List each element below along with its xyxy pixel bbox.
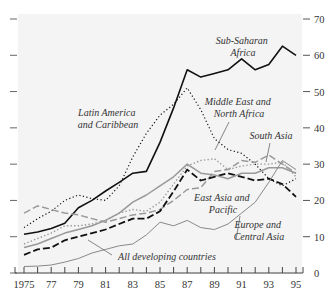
x-tick-label: 1975	[14, 279, 35, 290]
annotation-all-developing: All developing countries	[117, 251, 216, 262]
y-tick-label: 60	[314, 50, 325, 61]
x-tick-label: 85	[155, 279, 166, 290]
line-chart: 010203040506070 197577798183858789919395…	[0, 0, 333, 303]
x-tick-label: 91	[236, 279, 247, 290]
x-tick-label: 95	[291, 279, 302, 290]
y-tick-label: 40	[314, 123, 325, 134]
x-tick-label: 79	[73, 279, 84, 290]
annotation-middle-east: Middle East and North Africa	[204, 96, 274, 119]
y-axis: 010203040506070	[303, 14, 325, 279]
y-tick-label: 30	[314, 159, 325, 170]
x-tick-label: 77	[46, 279, 57, 290]
y-tick-label: 20	[314, 195, 325, 206]
y-tick-label: 10	[314, 232, 325, 243]
y-tick-label: 0	[314, 268, 319, 279]
x-tick-label: 83	[128, 279, 139, 290]
left-tick-marks	[10, 19, 17, 273]
x-tick-label: 93	[264, 279, 275, 290]
y-tick-label: 70	[314, 14, 325, 25]
x-tick-label: 87	[182, 279, 193, 290]
annotation-europe: Europe and Central Asia	[233, 219, 284, 242]
y-tick-label: 50	[314, 87, 325, 98]
annotation-latin-america: Latin America and Caribbean	[77, 107, 138, 130]
x-tick-label: 89	[209, 279, 220, 290]
x-tick-label: 81	[100, 279, 111, 290]
annotation-south-asia: South Asia	[250, 130, 293, 141]
